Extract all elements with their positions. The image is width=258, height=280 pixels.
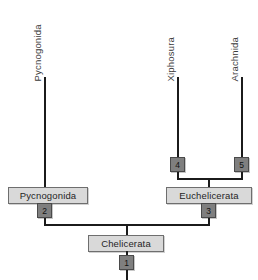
node-5[interactable]: 5: [234, 157, 249, 172]
root-stem: [126, 270, 128, 280]
connector-euchelicerata: [177, 178, 243, 180]
node-2[interactable]: 2: [37, 203, 52, 218]
branch-arachnida: [241, 77, 243, 167]
taxon-label-arachnida: Arachnida: [230, 37, 240, 82]
clade-box-pycnogonida[interactable]: Pycnogonida: [8, 187, 88, 204]
branch-pycnogonida: [44, 77, 46, 188]
taxon-label-xiphosura: Xiphosura: [166, 37, 176, 82]
taxon-label-pycnogonida: Pycnogonida: [33, 24, 43, 81]
branch-xiphosura: [177, 77, 179, 167]
node-4[interactable]: 4: [170, 157, 185, 172]
clade-box-euchelicerata[interactable]: Euchelicerata: [166, 187, 252, 204]
node-1[interactable]: 1: [119, 255, 134, 270]
cladogram-figure: Pycnogonida Xiphosura Arachnida 4 5 Euch…: [0, 0, 258, 280]
clade-box-chelicerata[interactable]: Chelicerata: [88, 235, 164, 252]
node-3[interactable]: 3: [201, 203, 216, 218]
